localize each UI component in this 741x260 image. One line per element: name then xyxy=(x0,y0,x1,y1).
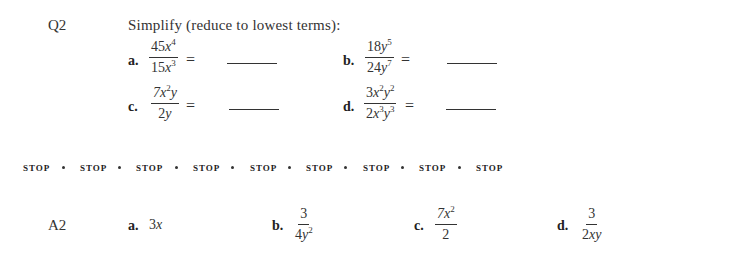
bullet-icon xyxy=(175,166,178,169)
part-c-numerator: 7x2y xyxy=(151,86,179,104)
exp: 2 xyxy=(450,204,455,214)
coef: 15 xyxy=(151,60,165,75)
part-c-label: c. xyxy=(128,99,138,115)
part-d-fraction: 3x2y2 2x3y3 xyxy=(364,86,396,121)
answer-c-numerator: 7x2 xyxy=(435,207,457,225)
bullet-icon xyxy=(288,166,291,169)
answer-a-label: a. xyxy=(128,218,139,234)
stop-marker: STOP xyxy=(306,163,333,173)
answer-c-fraction: 7x2 2 xyxy=(435,207,457,242)
part-b-numerator: 18y5 xyxy=(365,40,394,58)
part-b-equals: = xyxy=(401,51,410,69)
exp: 2 xyxy=(308,225,313,235)
part-c-denominator: 2y xyxy=(156,104,173,121)
bullet-icon xyxy=(401,166,404,169)
question-label: Q2 xyxy=(48,17,66,34)
exp: 2 xyxy=(390,83,395,93)
part-b-answer-blank[interactable] xyxy=(447,63,497,64)
stop-marker: STOP xyxy=(250,163,277,173)
part-c-fraction: 7x2y 2y xyxy=(151,86,179,121)
bullet-icon xyxy=(458,166,461,169)
answer-b-fraction: 3 4y2 xyxy=(293,207,315,242)
bullet-icon xyxy=(231,166,234,169)
answer-d-denominator: 2xy xyxy=(580,225,603,242)
part-d-numerator: 3x2y2 xyxy=(364,86,396,104)
stop-marker: STOP xyxy=(419,163,446,173)
bullet-icon xyxy=(62,166,65,169)
bullet-icon xyxy=(344,166,347,169)
part-b-fraction: 18y5 24y7 xyxy=(365,40,394,75)
answer-c-denominator: 2 xyxy=(440,225,451,242)
coef: 7 xyxy=(437,206,444,221)
answer-a-value: 3x xyxy=(149,217,162,233)
answer-c-label: c. xyxy=(414,218,424,234)
question-instruction: Simplify (reduce to lowest terms): xyxy=(128,17,341,34)
part-a-answer-blank[interactable] xyxy=(227,63,277,64)
stop-marker: STOP xyxy=(23,163,50,173)
coef: 3 xyxy=(149,217,156,232)
answer-b-denominator: 4y2 xyxy=(293,225,315,242)
part-d-equals: = xyxy=(405,97,414,115)
part-b-denominator: 24y7 xyxy=(365,58,394,75)
coef: 2 xyxy=(366,106,373,121)
part-c-equals: = xyxy=(186,97,195,115)
part-c-answer-blank[interactable] xyxy=(229,109,279,110)
bullet-icon xyxy=(118,166,121,169)
answer-label: A2 xyxy=(48,217,66,234)
var: y xyxy=(165,106,171,121)
part-d-denominator: 2x3y3 xyxy=(364,104,396,121)
var: xy xyxy=(589,227,601,242)
part-a-fraction: 45x4 15x3 xyxy=(149,40,178,75)
coef: 4 xyxy=(295,227,302,242)
part-a-numerator: 45x4 xyxy=(149,40,178,58)
answer-b-label: b. xyxy=(272,218,283,234)
stop-marker: STOP xyxy=(476,163,503,173)
coef: 3 xyxy=(366,85,373,100)
coef: 18 xyxy=(367,39,381,54)
exp: 3 xyxy=(390,104,395,114)
coef: 7 xyxy=(153,85,160,100)
stop-marker: STOP xyxy=(136,163,163,173)
exp: 5 xyxy=(387,37,392,47)
exp: 3 xyxy=(171,58,176,68)
answer-d-label: d. xyxy=(557,218,568,234)
answer-d-fraction: 3 2xy xyxy=(580,207,603,242)
coef: 24 xyxy=(367,60,381,75)
answer-d-numerator: 3 xyxy=(586,207,597,225)
part-b-label: b. xyxy=(343,53,354,69)
exp: 4 xyxy=(171,37,176,47)
stop-marker: STOP xyxy=(193,163,220,173)
exp: 7 xyxy=(387,58,392,68)
part-a-denominator: 15x3 xyxy=(149,58,178,75)
coef: 2 xyxy=(582,227,589,242)
part-d-answer-blank[interactable] xyxy=(446,109,496,110)
var: x xyxy=(156,217,162,232)
part-d-label: d. xyxy=(343,99,354,115)
var: y xyxy=(171,85,177,100)
part-a-label: a. xyxy=(128,53,139,69)
stop-marker: STOP xyxy=(80,163,107,173)
answer-b-numerator: 3 xyxy=(298,207,309,225)
part-a-equals: = xyxy=(186,51,195,69)
stop-marker: STOP xyxy=(363,163,390,173)
coef: 45 xyxy=(151,39,165,54)
